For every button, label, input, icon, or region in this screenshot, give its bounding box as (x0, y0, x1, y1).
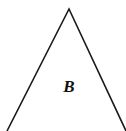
triangle-label: B (60, 78, 78, 96)
diagram-canvas: B (0, 0, 126, 131)
triangle-shape (0, 0, 126, 131)
